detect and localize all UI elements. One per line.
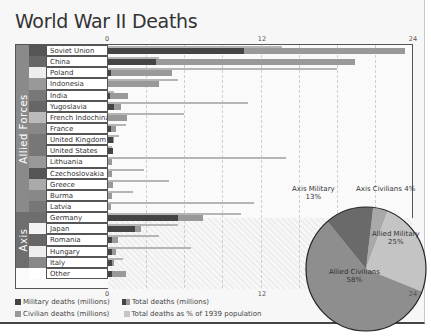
bar-military (108, 148, 113, 154)
legend-pct: Total deaths as % of 1939 population (124, 310, 262, 318)
flag-china-icon (29, 56, 46, 67)
table-row: China (16, 56, 412, 67)
pie-chart: Axis Military13% Axis Civilians 4% Allie… (304, 193, 428, 333)
flag-romania-icon (29, 234, 46, 245)
table-row: United Kingdom (16, 134, 412, 145)
bar-military (108, 260, 112, 266)
bar-military (108, 59, 156, 65)
flag-czechoslovakia-icon (29, 168, 46, 179)
legend-row-2: Civilian deaths (millions) Total deaths … (15, 310, 261, 318)
table-row: Soviet Union (16, 45, 412, 56)
top-tick-12: 12 (258, 35, 266, 43)
table-row: Indonesia (16, 78, 412, 89)
flag-greece-icon (29, 179, 46, 190)
bar-pct (108, 202, 254, 204)
bar-total (108, 70, 172, 76)
bar-military (108, 237, 112, 243)
bar-total (108, 159, 112, 165)
country-label: France (46, 123, 108, 134)
flag-germany-icon (29, 212, 46, 223)
bar-military (108, 93, 110, 99)
table-row: Yugoslavia (16, 101, 412, 112)
country-label: Latvia (46, 201, 108, 212)
flag-lithuania-icon (29, 156, 46, 167)
bottom-tick-24: 24 (409, 290, 417, 298)
bar-military (108, 271, 112, 277)
table-row: France (16, 123, 412, 134)
top-tick-0: 0 (105, 35, 109, 43)
swatch-military-icon (15, 299, 21, 305)
country-label: China (46, 56, 108, 67)
bar-pct (108, 247, 191, 249)
table-row: Czechoslovakia (16, 168, 412, 179)
bar-total (108, 81, 159, 87)
bar-total (108, 115, 127, 121)
country-label: Poland (46, 67, 108, 78)
country-label: Burma (46, 190, 108, 201)
country-label: United Kingdom (46, 134, 108, 145)
flag-united-kingdom-icon (29, 134, 46, 145)
pie-label-axis-military: Axis Military13% (292, 185, 335, 201)
table-row: French Indochina (16, 112, 412, 123)
flag-burma-icon (29, 190, 46, 201)
bottom-tick-0: 0 (105, 290, 109, 298)
flag-indonesia-icon (29, 78, 46, 89)
country-label: Germany (46, 212, 108, 223)
bar-chart: Allied Forces Axis Soviet UnionChinaPola… (15, 44, 413, 289)
flag-latvia-icon (29, 201, 46, 212)
bar-total (108, 171, 112, 177)
flag-france-icon (29, 123, 46, 134)
bar-total (108, 193, 112, 199)
pie-svg (304, 193, 428, 333)
flag-japan-icon (29, 223, 46, 234)
flag-italy-icon (29, 257, 46, 268)
bar-pct (108, 169, 144, 171)
bar-military (108, 215, 178, 221)
country-label: Romania (46, 234, 108, 245)
chart-title: World War II Deaths (15, 10, 197, 32)
table-row: Lithuania (16, 156, 412, 167)
bar-military (108, 137, 113, 143)
bar-military (108, 70, 111, 76)
table-row: Poland (16, 67, 412, 78)
country-label: Other (46, 268, 108, 279)
bar-total (108, 204, 111, 210)
country-label: Hungary (46, 246, 108, 257)
pie-label-allied-civilians: Allied Civilians58% (329, 268, 380, 284)
flag-hungary-icon (29, 246, 46, 257)
swatch-civilian-icon (15, 311, 21, 317)
flag-poland-icon (29, 67, 46, 78)
pie-label-allied-military: Allied Military25% (372, 230, 420, 246)
country-label: Italy (46, 257, 108, 268)
country-label: Soviet Union (46, 45, 108, 56)
legend-total: Total deaths (millions) (122, 298, 209, 306)
country-label: French Indochina (46, 112, 108, 123)
bar-pct (108, 102, 248, 104)
country-label: United States (46, 145, 108, 156)
bar-military (108, 104, 114, 110)
legend-civilian: Civilian deaths (millions) (15, 310, 109, 318)
bottom-tick-12: 12 (258, 290, 266, 298)
swatch-pct-icon (124, 311, 130, 317)
flag-other-icon (29, 268, 46, 279)
legend-row-1: Military deaths (millions) Total deaths … (15, 298, 209, 306)
bar-pct (108, 157, 286, 159)
bar-military (108, 226, 135, 232)
bar-total (108, 182, 113, 188)
country-label: Japan (46, 223, 108, 234)
swatch-total-icon (126, 299, 130, 305)
table-row: United States (16, 145, 412, 156)
bar-total (108, 93, 128, 99)
flag-yugoslavia-icon (29, 101, 46, 112)
flag-united-states-icon (29, 145, 46, 156)
bar-military (108, 249, 112, 255)
table-row: Greece (16, 179, 412, 190)
country-label: Indonesia (46, 78, 108, 89)
bar-military (108, 48, 244, 54)
table-row: India (16, 90, 412, 101)
bar-pct (108, 180, 169, 182)
flag-french-indochina-icon (29, 112, 46, 123)
country-label: Yugoslavia (46, 101, 108, 112)
flag-india-icon (29, 90, 46, 101)
legend-military: Military deaths (millions) (15, 298, 110, 306)
